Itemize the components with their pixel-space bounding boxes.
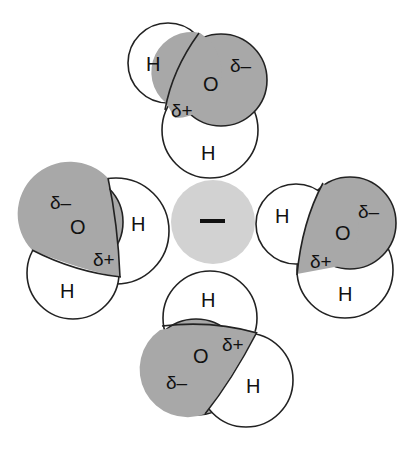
hydrogen-label: H <box>201 142 215 164</box>
partial-negative-label: δ– <box>230 55 252 76</box>
hydrogen-label: H <box>246 375 260 397</box>
hydrogen-label: H <box>201 289 215 311</box>
water-molecule-right: H O δ– δ+ H <box>256 177 396 318</box>
water-molecule-bottom: H δ+ O δ– H <box>140 271 293 427</box>
hydrogen-label: H <box>338 283 352 305</box>
hydrogen-label: H <box>60 280 74 302</box>
hydrogen-label: H <box>275 205 289 227</box>
hydrogen-label: H <box>146 53 160 75</box>
oxygen-label: O <box>335 222 351 244</box>
oxygen-label: O <box>70 216 86 238</box>
water-molecule-left: δ– O δ+ H H <box>18 162 169 319</box>
central-anion <box>171 180 255 264</box>
minus-sign <box>200 219 225 223</box>
oxygen-label: O <box>193 345 209 367</box>
partial-positive-label: δ+ <box>171 100 193 121</box>
partial-negative-label: δ– <box>50 192 72 213</box>
partial-negative-label: δ– <box>358 201 380 222</box>
partial-positive-label: δ+ <box>222 334 244 355</box>
hydration-diagram: H O δ– δ+ H δ– O δ+ H H H O δ– δ+ H <box>0 0 414 452</box>
partial-negative-label: δ– <box>166 372 188 393</box>
water-molecule-top: H O δ– δ+ H <box>128 23 267 178</box>
partial-positive-label: δ+ <box>93 249 115 270</box>
partial-positive-label: δ+ <box>310 251 332 272</box>
hydrogen-label: H <box>131 213 145 235</box>
oxygen-label: O <box>203 73 219 95</box>
